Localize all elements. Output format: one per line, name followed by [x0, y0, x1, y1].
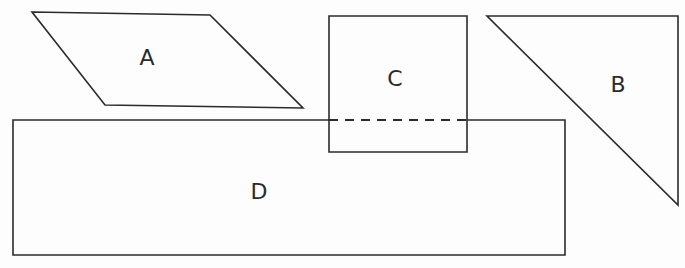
shape-label-A: A [139, 45, 154, 70]
shape-label-C: C [387, 66, 402, 91]
shape-D-fill [13, 120, 565, 255]
shape-label-B: B [610, 72, 625, 97]
shapes-diagram: A B C D [0, 0, 685, 268]
shape-group-D[interactable] [13, 120, 565, 255]
diagram-canvas: A B C D [0, 0, 685, 268]
shape-label-D: D [251, 179, 268, 204]
